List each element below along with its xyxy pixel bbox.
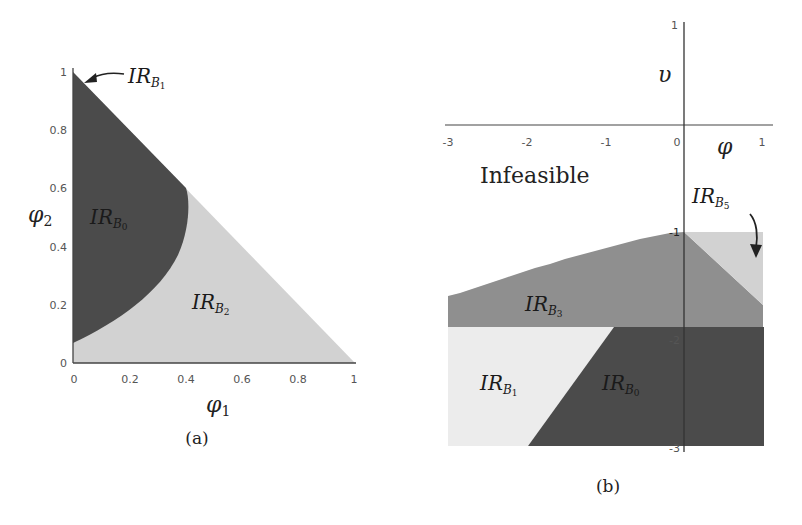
b-label-b5: IRB5 <box>691 184 730 211</box>
a-label-b1: IRB1 <box>127 64 166 91</box>
b-xtick: 0 <box>674 136 681 149</box>
a-arrow-icon <box>84 73 124 83</box>
b-xtick: 1 <box>759 136 766 149</box>
b-ytick: -1 <box>669 226 680 239</box>
b-ylabel: υ <box>658 62 671 87</box>
b-caption: (b) <box>596 476 620 496</box>
a-xtick: 1 <box>351 373 358 386</box>
b-xtick: -1 <box>601 136 612 149</box>
a-xtick: 0.2 <box>121 373 139 386</box>
a-xtick: 0.4 <box>177 373 195 386</box>
b-infeasible-label: Infeasible <box>480 163 590 188</box>
figure-canvas: 0 0.2 0.4 0.6 0.8 1 0 0.2 0.4 0.6 0.8 1 … <box>0 0 802 525</box>
b-xtick: -3 <box>443 136 454 149</box>
a-caption: (a) <box>185 428 208 448</box>
a-xlabel: φ1 <box>206 392 230 419</box>
a-xtick: 0.8 <box>289 373 307 386</box>
panel-a: 0 0.2 0.4 0.6 0.8 1 0 0.2 0.4 0.6 0.8 1 … <box>28 64 358 448</box>
a-ylabel: φ2 <box>28 202 52 229</box>
a-ytick: 0.2 <box>50 299 68 312</box>
b-xtick: -2 <box>522 136 533 149</box>
a-ytick: 1 <box>60 66 67 79</box>
a-ytick: 0.4 <box>50 241 68 254</box>
b-ytick: -2 <box>669 334 680 347</box>
b-xlabel: φ <box>717 134 733 159</box>
b-ytick: -3 <box>669 442 680 455</box>
a-xtick: 0.6 <box>233 373 251 386</box>
panel-b: -3 -2 -1 0 1 1 -1 -2 -3 υ φ Infeasible I… <box>443 19 773 496</box>
a-ytick: 0.8 <box>50 124 68 137</box>
a-xtick: 0 <box>71 373 78 386</box>
b-ytick: 1 <box>671 19 678 32</box>
a-ytick: 0.6 <box>50 182 68 195</box>
a-ytick: 0 <box>60 357 67 370</box>
